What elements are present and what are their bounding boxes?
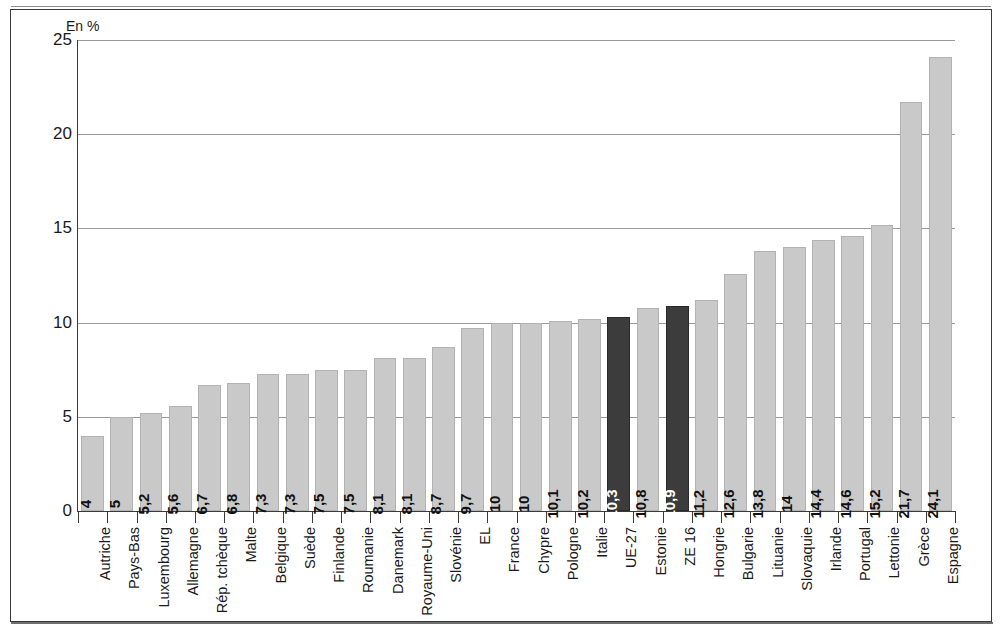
y-tick-label-25: 25: [32, 30, 72, 50]
x-tick: [633, 512, 634, 523]
x-tick: [283, 512, 284, 523]
x-tick: [107, 512, 108, 523]
x-tick: [312, 512, 313, 523]
bar-series: 455,25,66,76,87,37,37,57,58,18,18,79,710…: [78, 40, 955, 511]
bar-value-label: 14: [779, 496, 794, 513]
x-tick: [253, 512, 254, 523]
bar-royaume-uni: 8,1: [403, 358, 426, 511]
bar-slov-nie: 8,7: [432, 347, 455, 511]
y-tick-label-5: 5: [32, 407, 72, 427]
bar-italie: 10,2: [578, 319, 601, 511]
x-label-allemagne: Allemagne: [186, 527, 201, 596]
x-tick: [721, 512, 722, 523]
x-tick: [370, 512, 371, 523]
x-tick: [692, 512, 693, 523]
x-label-slovaquie: Slovaquie: [800, 527, 815, 591]
x-label-italie: Italie: [595, 527, 610, 558]
x-label-danemark: Danemark: [391, 527, 406, 594]
bar-autriche: 4: [81, 436, 104, 511]
x-label-lettonie: Lettonie: [887, 527, 902, 579]
x-label-estonie: Estonie: [654, 527, 669, 575]
bar-danemark: 8,1: [374, 358, 397, 511]
x-label-france: France: [507, 527, 522, 572]
x-label-autriche: Autriche: [98, 527, 113, 580]
x-tick: [195, 512, 196, 523]
x-tick: [458, 512, 459, 523]
bar-france: 10: [491, 323, 514, 511]
bar-portugal: 14,6: [841, 236, 864, 511]
x-tick: [517, 512, 518, 523]
x-tick: [575, 512, 576, 523]
bar-value-label: 5: [107, 500, 122, 508]
x-tick: [780, 512, 781, 523]
x-label-pologne: Pologne: [566, 527, 581, 580]
y-tick-label-20: 20: [32, 124, 72, 144]
bar-pays-bas: 5: [110, 417, 133, 511]
x-label-espagne: Espagne: [946, 527, 961, 584]
x-tick: [546, 512, 547, 523]
x-label-gr-ce: Grèce: [917, 527, 932, 567]
x-label-belgique: Belgique: [274, 527, 289, 583]
bar-r-p-tch-que: 6,7: [198, 385, 221, 511]
x-tick: [429, 512, 430, 523]
x-label-lituanie: Lituanie: [771, 527, 786, 578]
x-label-roumanie: Roumanie: [361, 527, 376, 593]
bar-el: 9,7: [461, 328, 484, 511]
bar-value-label: 10: [487, 496, 502, 513]
top-clipped-rule: [11, 6, 991, 7]
x-label-ue-27: UE-27: [624, 527, 639, 568]
bar-pologne: 10,1: [549, 321, 572, 511]
bar-roumanie: 7,5: [344, 370, 367, 511]
bar-luxembourg: 5,2: [140, 413, 163, 511]
chart-figure: En % 0510152025 455,25,66,76,87,37,37,57…: [0, 0, 1004, 639]
x-label-ze-16: ZE 16: [683, 527, 698, 566]
x-tick: [604, 512, 605, 523]
x-tick: [166, 512, 167, 523]
x-tick: [400, 512, 401, 523]
bar-malte: 6,8: [227, 383, 250, 511]
x-tick: [78, 512, 79, 523]
plot-area: 455,25,66,76,87,37,37,57,58,18,18,79,710…: [78, 40, 955, 511]
x-axis-ticks: [78, 512, 956, 524]
bar-irlande: 14,4: [812, 240, 835, 511]
x-label-chypre: Chypre: [537, 527, 552, 574]
bar-allemagne: 5,6: [169, 406, 192, 512]
x-label-bulgarie: Bulgarie: [741, 527, 756, 580]
bar-value-label: 10: [516, 496, 531, 513]
bar-finlande: 7,5: [315, 370, 338, 511]
bar-value-label: 4: [78, 500, 93, 508]
bar-ue-27: 10,3: [607, 317, 630, 511]
x-label-finlande: Finlande: [332, 527, 347, 583]
bar-slovaquie: 14: [783, 247, 806, 511]
y-tick-label-15: 15: [32, 218, 72, 238]
y-tick-label-10: 10: [32, 313, 72, 333]
bar-belgique: 7,3: [257, 374, 280, 512]
x-label-el: EL: [478, 527, 493, 545]
x-label-hongrie: Hongrie: [712, 527, 727, 578]
bar-ze-16: 10,9: [666, 306, 689, 511]
x-tick: [224, 512, 225, 523]
x-tick: [838, 512, 839, 523]
x-tick: [487, 512, 488, 523]
y-axis-tick-labels: 0510152025: [22, 40, 72, 511]
x-tick: [867, 512, 868, 523]
bar-hongrie: 11,2: [695, 300, 718, 511]
bar-lettonie: 15,2: [871, 225, 894, 511]
x-tick: [955, 512, 956, 523]
x-tick: [750, 512, 751, 523]
bar-espagne: 24,1: [929, 57, 952, 511]
x-label-pays-bas: Pays-Bas: [127, 527, 142, 589]
x-label-irlande: Irlande: [829, 527, 844, 571]
bar-lituanie: 13,8: [754, 251, 777, 511]
bar-gr-ce: 21,7: [900, 102, 923, 511]
x-label-portugal: Portugal: [858, 527, 873, 581]
x-label-slov-nie: Slovénie: [449, 527, 464, 583]
x-label-su-de: Suède: [303, 527, 318, 569]
x-label-r-p-tch-que: Rép. tchèque: [215, 527, 230, 613]
bar-chypre: 10: [520, 323, 543, 511]
x-tick: [897, 512, 898, 523]
x-tick: [663, 512, 664, 523]
bar-estonie: 10,8: [637, 308, 660, 512]
x-tick: [137, 512, 138, 523]
x-tick: [809, 512, 810, 523]
